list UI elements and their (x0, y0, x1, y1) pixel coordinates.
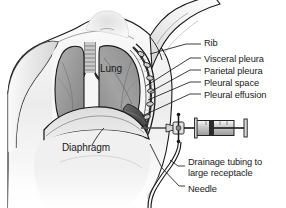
label-drainage-tubing-line2: large receptacle (188, 168, 253, 178)
label-lung: Lung (100, 64, 122, 74)
figure-thoracentesis: Rib Visceral pleura Parietal pleura Pleu… (0, 0, 286, 208)
label-visceral-pleura: Visceral pleura (204, 54, 264, 64)
three-way-stopcock (173, 113, 184, 144)
label-pleural-effusion: Pleural effusion (204, 90, 266, 100)
syringe (184, 118, 247, 138)
label-pleural-space: Pleural space (204, 78, 259, 88)
label-parietal-pleura: Parietal pleura (204, 66, 262, 76)
label-drainage-tubing-line1: Drainage tubing to (188, 157, 262, 167)
label-needle: Needle (188, 184, 217, 194)
label-rib: Rib (204, 38, 218, 48)
label-diaphragm: Diaphragm (62, 143, 110, 153)
